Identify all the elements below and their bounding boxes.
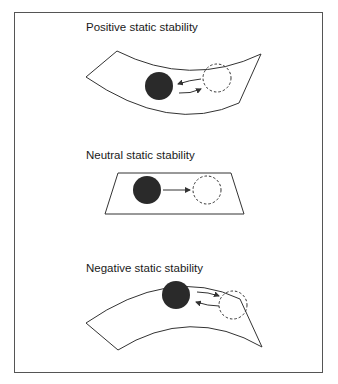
diverge-arrow bbox=[197, 292, 219, 296]
oscillate-arrow bbox=[179, 89, 201, 93]
equilibrium-ball bbox=[145, 72, 173, 100]
equilibrium-ball bbox=[133, 176, 161, 204]
neutral-panel bbox=[105, 173, 244, 214]
diverge-arrow-2 bbox=[196, 302, 219, 306]
displaced-ball-dashed bbox=[193, 176, 221, 204]
negative-panel bbox=[86, 281, 262, 350]
flat-surface bbox=[105, 173, 244, 214]
positive-panel bbox=[86, 51, 261, 114]
stability-diagram bbox=[0, 0, 338, 384]
concave-surface bbox=[86, 51, 261, 114]
equilibrium-ball bbox=[162, 281, 190, 309]
return-arrow bbox=[178, 79, 201, 84]
